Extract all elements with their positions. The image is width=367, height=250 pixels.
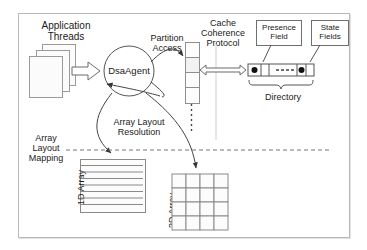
partition-access-curve-out [151,49,183,62]
state-fields-leader [310,45,320,62]
diagram-vectors: DsaAgent [0,0,367,250]
two-d-array-grid [172,174,228,230]
one-d-array-rows [81,166,143,205]
threads-to-agent-block-arrow [72,62,100,80]
presence-dot-2 [299,67,305,73]
cache-coherence-double-arrow [200,65,246,75]
directory-brace [249,80,313,89]
partition-access-curve-mid [151,82,164,97]
dsa-agent-text: DsaAgent [108,65,150,76]
presence-dot-1 [252,67,258,73]
resolution-curve-to-2d [146,93,196,168]
presence-field-leader [263,45,271,62]
diagram-canvas: Application Threads Partition Access Cac… [0,0,367,250]
resolution-curve-to-1d [97,93,112,153]
